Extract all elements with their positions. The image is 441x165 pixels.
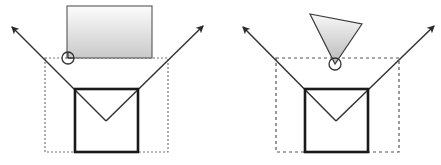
left-panel: [12, 6, 203, 152]
dotted-bounding-box: [276, 58, 399, 152]
pivot-circle: [62, 52, 74, 64]
dotted-bounding-box: [45, 58, 168, 152]
diagram-canvas: [0, 0, 441, 165]
right-panel: [243, 14, 434, 152]
gradient-cone: [310, 14, 362, 64]
figure-container: [0, 0, 441, 165]
ray-left: [243, 27, 336, 121]
gradient-rectangle: [67, 6, 152, 58]
